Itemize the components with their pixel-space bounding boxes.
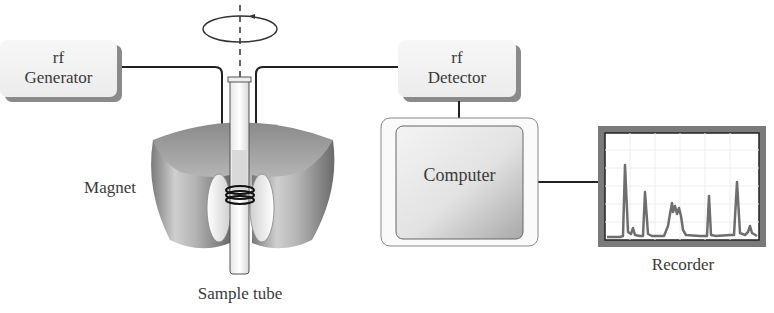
rf-detector-label: rf Detector	[398, 48, 516, 88]
magnet-label: Magnet	[70, 178, 150, 198]
rf-generator-line1: rf	[0, 48, 117, 68]
rf-detector-line1: rf	[398, 48, 516, 68]
recorder	[598, 126, 766, 247]
sample-tube	[228, 77, 251, 274]
recorder-label: Recorder	[628, 255, 738, 275]
rf-generator-label: rf Generator	[0, 48, 117, 88]
computer-label: Computer	[396, 165, 523, 185]
rf-generator-line2: Generator	[0, 68, 117, 88]
sample-tube-label: Sample tube	[180, 284, 300, 304]
rf-detector-line2: Detector	[398, 68, 516, 88]
